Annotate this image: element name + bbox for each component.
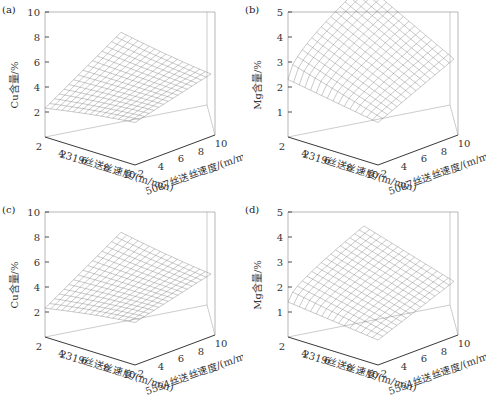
surface-mesh [288,226,454,340]
y-tick-label: 8 [441,146,447,157]
y-tick-label: 8 [441,346,447,357]
z-tick-label: 2 [277,282,283,293]
panel-b: 123452468102468102319丝送丝速度/(m/min)5087丝送… [243,0,486,195]
y-tick-label: 8 [198,346,204,357]
z-tick-label: 4 [34,282,40,293]
z-tick-label: 2 [34,107,40,118]
z-tick-label: 1 [277,107,283,118]
y-tick-label: 10 [215,338,228,349]
y-tick-label: 4 [401,361,407,372]
y-tick-label: 4 [401,161,407,172]
y-tick-label: 8 [198,146,204,157]
panel-label: (a) [2,4,16,15]
z-tick-label: 8 [34,32,40,43]
panel-a: 2468102468102468102319丝送丝速度/(m/min)5087丝… [0,0,243,195]
y-tick-label: 6 [421,353,427,364]
x-tick-label: 2 [279,341,285,352]
y-tick-label: 6 [421,153,427,164]
panel-label: (c) [2,204,15,215]
z-tick-label: 3 [277,57,283,68]
axis-box [45,12,215,137]
axis-box [45,212,215,337]
z-tick-label: 4 [34,82,40,93]
figure-caption-cutoff [60,392,360,406]
surface-mesh [288,0,454,123]
axis-box [288,12,458,137]
z-tick-label: 8 [34,232,40,243]
z-tick-label: 4 [277,32,283,43]
x-tick-label: 2 [279,141,285,152]
z-tick-label: 2 [277,82,283,93]
x-tick-label: 2 [36,341,42,352]
x-tick-label: 2 [36,141,42,152]
z-axis-label: Mg含量/% [251,60,263,110]
panel-d: 123452468102468102319丝送丝速度/(m/min)5554丝送… [243,200,486,395]
z-tick-label: 10 [27,7,40,18]
y-tick-label: 10 [458,338,471,349]
z-tick-label: 4 [277,232,283,243]
panel-c: 2468102468102468102319丝送丝速度/(m/min)5554丝… [0,200,243,395]
z-tick-label: 3 [277,257,283,268]
y-tick-label: 4 [158,361,164,372]
z-tick-label: 5 [277,207,283,218]
y-tick-label: 6 [178,353,184,364]
z-tick-label: 10 [27,207,40,218]
z-axis-label: Cu含量/% [8,262,20,309]
z-tick-label: 1 [277,307,283,318]
z-tick-label: 2 [34,307,40,318]
panel-label: (b) [245,4,259,15]
panel-label: (d) [245,204,259,215]
z-axis-label: Mg含量/% [251,260,263,310]
z-tick-label: 5 [277,7,283,18]
y-tick-label: 10 [215,138,228,149]
z-tick-label: 6 [34,257,40,268]
y-tick-label: 10 [458,138,471,149]
y-tick-label: 4 [158,161,164,172]
y-tick-label: 6 [178,153,184,164]
z-tick-label: 6 [34,57,40,68]
z-axis-label: Cu含量/% [8,62,20,109]
